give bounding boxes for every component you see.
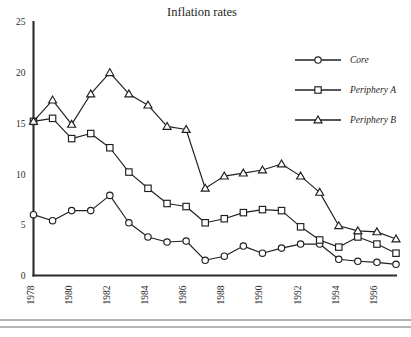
chart-figure: Inflation rates 0510152025 1978198019821…: [0, 0, 411, 337]
data-point-marker: [183, 203, 189, 209]
data-point-marker: [336, 256, 342, 262]
data-point-marker: [221, 253, 227, 259]
data-point-marker: [88, 207, 94, 213]
data-point-marker: [259, 250, 265, 256]
series-periphery-b: [30, 69, 401, 242]
data-point-marker: [126, 220, 132, 226]
data-point-marker: [49, 96, 57, 103]
data-point-marker: [164, 239, 170, 245]
data-point-marker: [278, 245, 284, 251]
x-tick-label: 1990: [254, 285, 264, 304]
legend-item-periphery-b[interactable]: Periphery B: [295, 115, 396, 125]
data-point-marker: [126, 169, 132, 175]
data-point-marker: [297, 241, 303, 247]
legend-marker: [315, 57, 321, 63]
x-tick-label: 1980: [64, 285, 74, 304]
y-tick-label: 15: [16, 119, 26, 129]
data-point-marker: [374, 241, 380, 247]
data-point-marker: [336, 244, 342, 250]
x-tick-label: 1992: [293, 285, 303, 304]
data-point-marker: [259, 206, 265, 212]
chart-title: Inflation rates: [167, 5, 237, 19]
data-point-marker: [393, 250, 399, 256]
data-point-marker: [297, 172, 305, 179]
data-point-marker: [355, 234, 361, 240]
footer-rules: [0, 320, 411, 327]
legend-label: Periphery A: [349, 85, 396, 95]
legend-marker: [315, 87, 321, 93]
data-point-marker: [393, 261, 399, 267]
data-point-marker: [107, 145, 113, 151]
x-tick-label: 1986: [178, 285, 188, 304]
x-tick-label: 1984: [140, 285, 150, 304]
series-periphery-a: [30, 115, 399, 256]
x-tick-label: 1994: [331, 285, 341, 304]
data-point-marker: [201, 184, 209, 191]
data-point-marker: [68, 135, 74, 141]
data-point-marker: [145, 185, 151, 191]
x-tick-label: 1996: [369, 285, 379, 304]
data-point-marker: [88, 130, 94, 136]
series-line: [34, 73, 397, 239]
legend-item-core[interactable]: Core: [295, 55, 369, 65]
legend-item-periphery-a[interactable]: Periphery A: [295, 85, 396, 95]
legend-label: Periphery B: [349, 115, 396, 125]
data-point-marker: [68, 207, 74, 213]
y-axis-tick-labels: 0510152025: [16, 17, 26, 281]
y-tick-label: 5: [21, 220, 26, 230]
series-layer: [30, 69, 401, 268]
x-tick-label: 1978: [26, 285, 36, 304]
data-point-marker: [240, 209, 246, 215]
data-point-marker: [335, 222, 343, 229]
y-tick-label: 10: [16, 170, 26, 180]
data-point-marker: [355, 258, 361, 264]
data-point-marker: [49, 115, 55, 121]
data-point-marker: [106, 69, 114, 76]
series-line: [34, 118, 397, 253]
data-point-marker: [183, 238, 189, 244]
series-line: [34, 195, 397, 264]
y-tick-label: 20: [16, 68, 26, 78]
chart-legend: CorePeriphery APeriphery B: [295, 55, 396, 125]
y-tick-label: 0: [21, 271, 26, 281]
legend-label: Core: [350, 55, 369, 65]
data-point-marker: [221, 216, 227, 222]
data-point-marker: [278, 207, 284, 213]
series-core: [30, 192, 399, 267]
data-point-marker: [107, 192, 113, 198]
data-point-marker: [144, 101, 152, 108]
data-point-marker: [316, 237, 322, 243]
x-tick-label: 1988: [216, 285, 226, 304]
data-point-marker: [240, 243, 246, 249]
data-point-marker: [202, 257, 208, 263]
data-point-marker: [145, 234, 151, 240]
data-point-marker: [202, 220, 208, 226]
x-tick-label: 1982: [102, 285, 112, 304]
data-point-marker: [49, 218, 55, 224]
x-axis-tick-labels: 1978198019821984198619881990199219941996: [26, 285, 379, 304]
y-tick-label: 25: [16, 17, 26, 27]
inflation-rates-chart: Inflation rates 0510152025 1978198019821…: [0, 0, 411, 337]
data-point-marker: [297, 224, 303, 230]
data-point-marker: [278, 160, 286, 167]
data-point-marker: [374, 259, 380, 265]
data-point-marker: [164, 200, 170, 206]
data-point-marker: [30, 211, 36, 217]
